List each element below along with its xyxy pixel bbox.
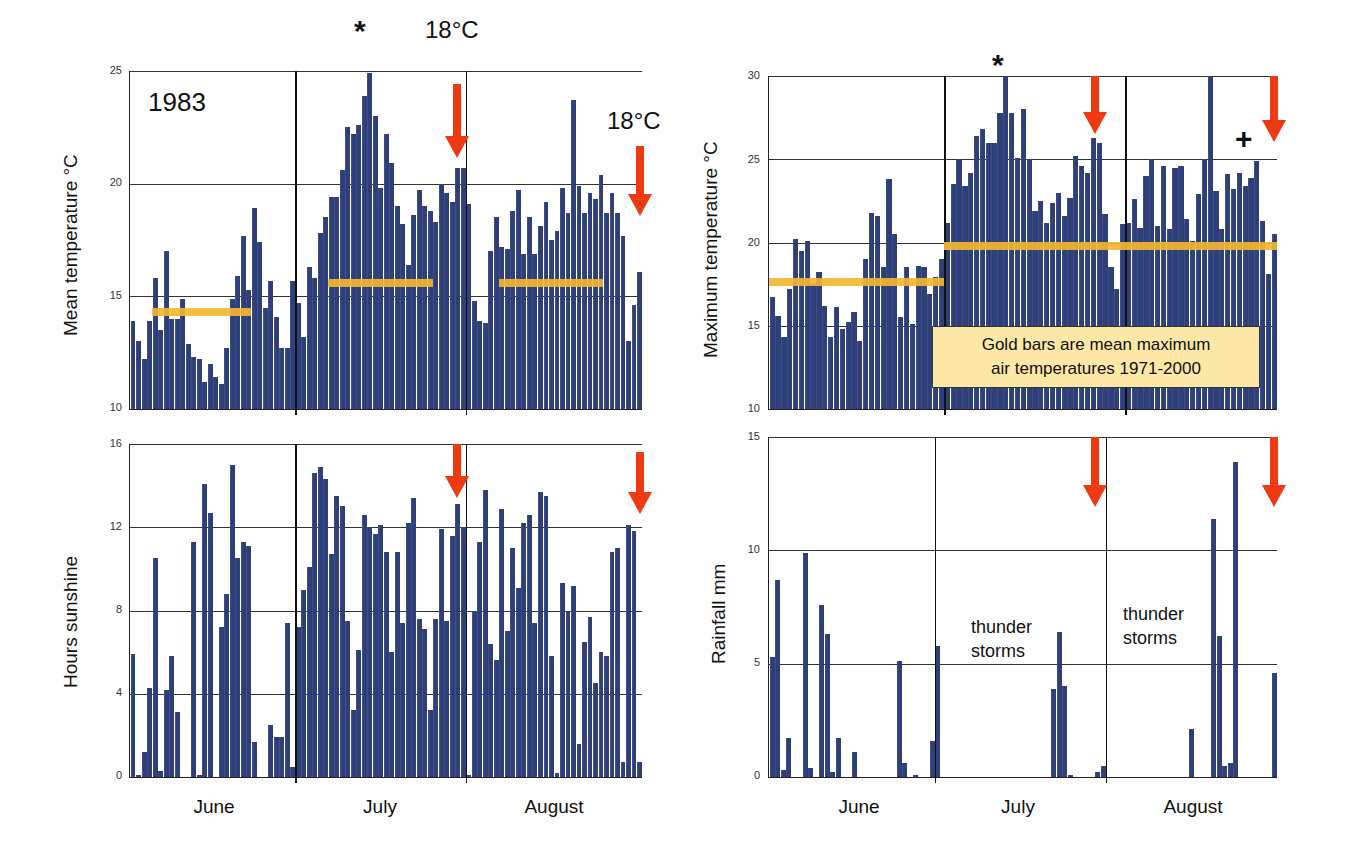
bar [323, 479, 328, 777]
bar [604, 213, 609, 409]
bar [566, 611, 571, 778]
bar [560, 583, 565, 777]
bar [367, 73, 372, 409]
bar [197, 775, 202, 777]
bar [521, 523, 526, 777]
bar [428, 710, 433, 777]
bar [828, 337, 833, 409]
bar [549, 240, 554, 409]
bar [571, 100, 576, 409]
red-down-arrow-icon [445, 444, 469, 500]
bar [610, 193, 615, 409]
bar [384, 134, 389, 409]
bar [477, 321, 482, 409]
bar [593, 683, 598, 777]
y-tick: 16 [92, 437, 122, 449]
bar [588, 617, 593, 777]
annotation-line: storms [1123, 626, 1184, 650]
bar [770, 657, 775, 777]
bar [532, 623, 537, 777]
bar [483, 323, 488, 409]
bar [599, 652, 604, 777]
bar [549, 656, 554, 777]
y-tick: 30 [730, 69, 760, 81]
bar [494, 660, 499, 777]
bar [351, 710, 356, 777]
gridline [769, 437, 1277, 438]
bar [555, 773, 560, 777]
gridline [130, 71, 642, 72]
reference-gold-bar [328, 279, 433, 287]
y-tick: 10 [92, 401, 122, 413]
bar [356, 125, 361, 409]
bar [472, 301, 477, 409]
bar [274, 317, 279, 409]
bar [819, 605, 824, 777]
threshold-label-august: 18°C [607, 107, 661, 135]
bar [417, 190, 422, 409]
bar [626, 525, 631, 777]
bar [1057, 632, 1062, 777]
bar [521, 254, 526, 409]
bar [599, 175, 604, 409]
bar [560, 188, 565, 409]
bar [422, 629, 427, 777]
bar [857, 341, 862, 409]
bar [142, 752, 147, 777]
bar [604, 656, 609, 777]
bar [136, 341, 141, 409]
bar [186, 344, 191, 409]
annotation-line: thunder [971, 615, 1032, 639]
gridline [769, 76, 1277, 77]
bar [582, 213, 587, 409]
bar [307, 267, 312, 409]
bar [787, 289, 792, 409]
bar [158, 771, 163, 777]
bar [1217, 636, 1222, 777]
bar [312, 278, 317, 409]
red-down-arrow-icon [1083, 437, 1107, 509]
bar [279, 348, 284, 409]
bar [131, 321, 136, 409]
gridline [769, 550, 1277, 551]
bar [340, 506, 345, 777]
bar [881, 267, 886, 409]
month-label-july: July [958, 796, 1078, 818]
bar [904, 267, 909, 409]
red-down-arrow-icon [1262, 76, 1286, 146]
bar [1222, 766, 1227, 777]
bar [510, 548, 515, 777]
rainfall-plot [768, 437, 1277, 778]
bar [1266, 274, 1271, 409]
bar [825, 634, 830, 777]
bar [257, 242, 262, 409]
bar [318, 467, 323, 777]
bar [1272, 673, 1277, 777]
bar [555, 231, 560, 409]
bar [615, 548, 620, 777]
bar [1062, 686, 1067, 777]
bar [345, 621, 350, 777]
y-tick: 15 [730, 319, 760, 331]
y-tick: 10 [730, 402, 760, 414]
bar [175, 319, 180, 409]
bar [810, 284, 815, 409]
bar [164, 690, 169, 777]
bar [851, 312, 856, 409]
bar [582, 642, 587, 777]
bar [477, 542, 482, 777]
month-divider [935, 437, 937, 783]
bar [852, 752, 857, 777]
bar [886, 179, 891, 409]
red-down-arrow-icon [628, 452, 652, 518]
bar [444, 621, 449, 777]
reference-gold-bar [152, 308, 251, 316]
reference-gold-bar [944, 242, 1277, 250]
y-tick: 20 [730, 236, 760, 248]
bar [329, 197, 334, 409]
bar [373, 534, 378, 778]
bar [268, 725, 273, 777]
bar [799, 251, 804, 409]
bar [252, 208, 257, 409]
bar [329, 554, 334, 777]
